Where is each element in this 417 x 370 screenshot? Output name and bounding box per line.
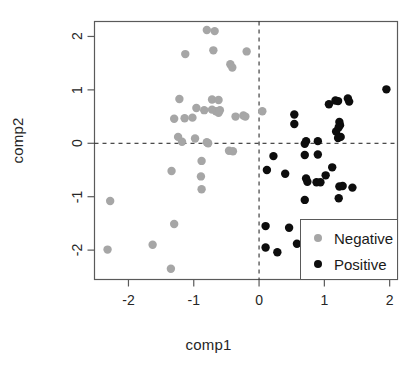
data-point-positive [301,196,309,204]
data-point-positive [314,137,322,145]
y-tick-label: 1 [69,79,85,101]
data-point-positive [314,150,322,158]
data-point-negative [103,245,111,253]
data-point-negative [229,147,237,155]
x-tick-label: 0 [255,292,263,308]
data-point-negative [209,46,217,54]
data-point-negative [197,185,205,193]
data-point-negative [175,95,183,103]
y-axis-label: comp2 [9,81,26,201]
x-tick-label: -2 [122,292,134,308]
data-point-positive [335,194,343,202]
data-point-negative [167,167,175,175]
data-point-negative [188,113,196,121]
data-point-negative [167,265,175,273]
data-point-negative [242,47,250,55]
y-tick-label: 0 [69,132,85,154]
data-point-positive [334,134,342,142]
chart-legend: Negative Positive [300,219,398,280]
data-point-negative [203,26,211,34]
scatter-plot-figure: comp1 comp2 -2-1012 -2-1012 Negative Pos… [0,0,417,370]
data-point-positive [281,170,289,178]
data-point-negative [216,106,224,114]
data-point-negative [258,107,266,115]
x-tick-label: -1 [188,292,200,308]
data-point-positive [328,163,336,171]
y-tick-label: -2 [69,239,85,261]
data-point-positive [348,183,356,191]
legend-marker-negative [314,234,322,242]
data-point-negative [181,50,189,58]
y-tick-label: -1 [69,186,85,208]
data-point-positive [290,110,298,118]
data-point-positive [382,85,390,93]
data-point-negative [231,112,239,120]
data-point-negative [106,197,114,205]
data-point-positive [273,248,281,256]
y-tick-label: 2 [69,25,85,47]
legend-item-positive: Positive [301,251,399,277]
data-point-positive [290,120,298,128]
data-point-negative [228,63,236,71]
data-point-negative [170,220,178,228]
data-point-positive [345,97,353,105]
data-point-negative [197,172,205,180]
data-point-negative [204,139,212,147]
data-point-positive [321,171,329,179]
x-tick-label: 1 [320,292,328,308]
data-point-negative [200,106,208,114]
data-point-negative [192,104,200,112]
data-point-positive [334,97,342,105]
data-point-positive [335,123,343,131]
legend-label-positive: Positive [334,257,387,272]
x-tick-label: 2 [386,292,394,308]
data-point-positive [301,140,309,148]
data-point-negative [191,134,199,142]
x-axis-label: comp1 [0,336,417,353]
data-point-negative [180,114,188,122]
plot-canvas [0,0,417,370]
data-point-negative [214,96,222,104]
data-point-positive [261,222,269,230]
data-point-negative [197,157,205,165]
data-point-negative [210,27,218,35]
data-point-positive [261,243,269,251]
data-point-positive [301,151,309,159]
data-point-positive [285,223,293,231]
legend-marker-positive [314,260,322,268]
data-point-positive [316,178,324,186]
data-point-positive [263,166,271,174]
data-point-negative [241,112,249,120]
data-point-positive [269,152,277,160]
data-point-positive [303,178,311,186]
data-point-negative [178,137,186,145]
data-point-negative [148,241,156,249]
data-point-negative [170,115,178,123]
legend-label-negative: Negative [334,231,393,246]
data-point-positive [338,182,346,190]
legend-item-negative: Negative [301,225,399,251]
